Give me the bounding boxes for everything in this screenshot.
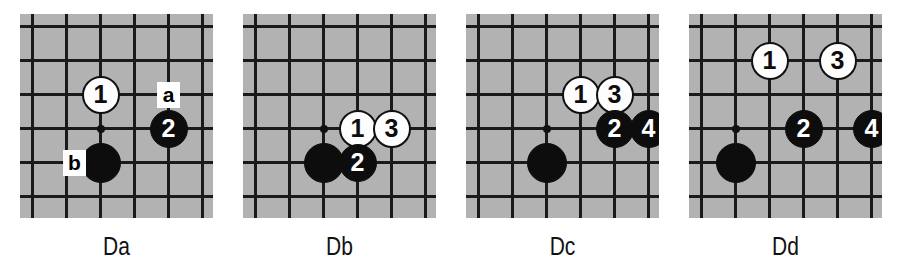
grid-line-horizontal: [689, 25, 882, 28]
grid-line-horizontal: [466, 59, 659, 62]
grid-line-vertical: [424, 14, 427, 218]
go-board-db[interactable]: 123: [243, 14, 436, 218]
black-stone-2[interactable]: 2: [785, 110, 823, 148]
grid-line-vertical: [700, 14, 703, 218]
panel-caption-dd: Dd: [704, 232, 866, 261]
white-stone-3[interactable]: 3: [819, 42, 857, 80]
go-board-dc[interactable]: 1324: [466, 14, 659, 218]
black-stone-corner[interactable]: [304, 143, 344, 183]
black-stone-2[interactable]: 2: [150, 110, 188, 148]
black-stone-corner[interactable]: [527, 143, 567, 183]
grid-line-horizontal: [20, 195, 213, 198]
grid-line-vertical: [65, 14, 68, 218]
grid-line-vertical: [734, 14, 737, 218]
panel-caption-db: Db: [258, 232, 420, 261]
panel-caption-dc: Dc: [481, 232, 643, 261]
white-stone-1[interactable]: 1: [562, 76, 600, 114]
white-stone-1[interactable]: 1: [339, 110, 377, 148]
black-stone-corner[interactable]: [716, 143, 756, 183]
white-stone-1[interactable]: 1: [82, 76, 120, 114]
grid-line-vertical: [477, 14, 480, 218]
black-stone-corner[interactable]: [81, 143, 121, 183]
star-point: [543, 125, 551, 133]
grid-line-vertical: [99, 14, 102, 218]
grid-line-vertical: [322, 14, 325, 218]
grid-line-horizontal: [20, 25, 213, 28]
star-point: [320, 125, 328, 133]
grid-line-horizontal: [689, 93, 882, 96]
go-board-dd[interactable]: 1324: [689, 14, 882, 218]
white-stone-3[interactable]: 3: [373, 110, 411, 148]
grid-line-vertical: [545, 14, 548, 218]
black-stone-4[interactable]: 4: [853, 110, 883, 148]
go-diagram-figure: 12abDa123Db1324Dc1324Dd: [0, 0, 906, 276]
black-stone-2[interactable]: 2: [339, 144, 377, 182]
grid-line-horizontal: [466, 25, 659, 28]
grid-line-horizontal: [466, 195, 659, 198]
white-stone-1[interactable]: 1: [751, 42, 789, 80]
black-stone-4[interactable]: 4: [630, 110, 660, 148]
panel-caption-da: Da: [35, 232, 197, 261]
grid-line-horizontal: [20, 59, 213, 62]
grid-line-horizontal: [243, 93, 436, 96]
star-point: [97, 125, 105, 133]
grid-line-horizontal: [243, 59, 436, 62]
point-label-a[interactable]: a: [157, 82, 180, 108]
grid-line-vertical: [201, 14, 204, 218]
grid-line-vertical: [31, 14, 34, 218]
grid-line-horizontal: [243, 25, 436, 28]
point-label-b[interactable]: b: [63, 150, 86, 176]
black-stone-2[interactable]: 2: [596, 110, 634, 148]
grid-line-vertical: [288, 14, 291, 218]
grid-line-vertical: [133, 14, 136, 218]
grid-line-vertical: [579, 14, 582, 218]
grid-line-vertical: [254, 14, 257, 218]
star-point: [732, 125, 740, 133]
grid-line-horizontal: [689, 195, 882, 198]
grid-line-horizontal: [243, 195, 436, 198]
white-stone-3[interactable]: 3: [596, 76, 634, 114]
grid-line-vertical: [511, 14, 514, 218]
go-board-da[interactable]: 12ab: [20, 14, 213, 218]
